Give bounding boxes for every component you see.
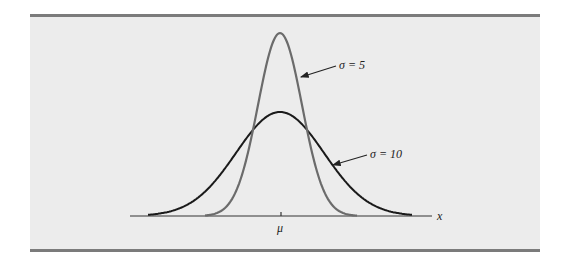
sigma-5-label: σ = 5 — [339, 58, 365, 72]
sigma-10-curve — [148, 112, 412, 215]
x-axis-label: x — [436, 209, 443, 223]
sigma-5-curve — [205, 33, 357, 216]
sigma-10-label: σ = 10 — [370, 147, 402, 161]
sigma-10-arrow — [333, 155, 367, 165]
normal-curves-chart: σ = 5 σ = 10 μ x — [0, 0, 567, 262]
sigma-5-arrow — [301, 66, 336, 77]
mu-label: μ — [276, 221, 283, 235]
